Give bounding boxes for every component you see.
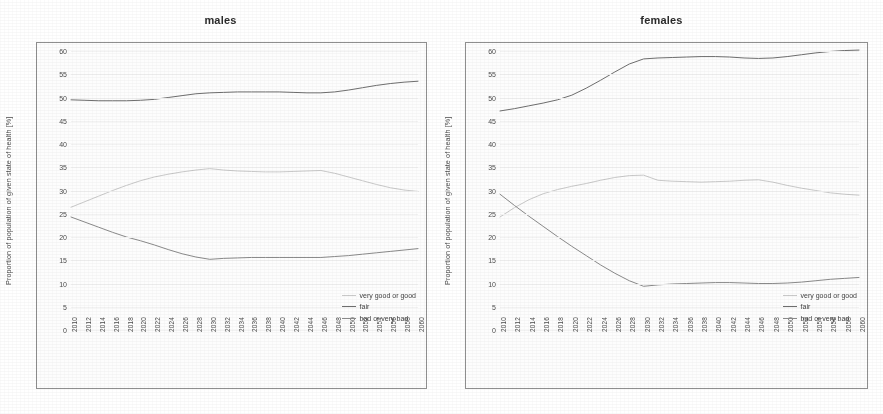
y-tick-label: 0 (492, 327, 496, 334)
y-tick-label: 35 (488, 164, 496, 171)
y-tick-label: 45 (488, 117, 496, 124)
legend-item: bad or very bad (783, 313, 857, 325)
panel-males: males Proportion of population of given … (0, 0, 441, 414)
plot-frame-females: 0510152025303540455055602010201220142016… (465, 42, 868, 389)
y-tick-label: 50 (488, 94, 496, 101)
y-axis-label-males: Proportion of population of given state … (2, 76, 16, 326)
gridline (71, 144, 418, 145)
y-tick-label: 60 (488, 48, 496, 55)
y-tick-label: 30 (488, 187, 496, 194)
y-tick-label: 55 (59, 71, 67, 78)
gridline (500, 167, 859, 168)
legend-swatch-line-icon (783, 295, 797, 296)
legend-item: very good or good (783, 290, 857, 302)
gridline (500, 144, 859, 145)
y-axis-label-females: Proportion of population of given state … (441, 76, 455, 326)
legend-item: very good or good (342, 290, 416, 302)
gridline (71, 260, 418, 261)
legend-males: very good or goodfairbad or very bad (342, 290, 416, 325)
series-line-bad-or-very-bad (500, 194, 859, 286)
y-tick-label: 10 (59, 280, 67, 287)
legend-item: fair (342, 301, 416, 313)
panel-females: females Proportion of population of give… (441, 0, 882, 414)
legend-females: very good or goodfairbad or very bad (783, 290, 857, 325)
gridline (71, 121, 418, 122)
gridline (71, 191, 418, 192)
legend-item-label: bad or very bad (360, 313, 409, 325)
gridline (500, 121, 859, 122)
y-tick-label: 15 (59, 257, 67, 264)
plot-area-females: 0510152025303540455055602010201220142016… (500, 51, 859, 330)
y-tick-label: 60 (59, 48, 67, 55)
gridline (500, 51, 859, 52)
legend-swatch-line-icon (783, 306, 797, 307)
legend-item: fair (783, 301, 857, 313)
legend-item-label: fair (801, 301, 811, 313)
legend-item: bad or very bad (342, 313, 416, 325)
y-tick-label: 20 (59, 234, 67, 241)
y-tick-label: 5 (63, 303, 67, 310)
legend-item-label: very good or good (360, 290, 416, 302)
gridline (71, 98, 418, 99)
y-tick-label: 5 (492, 303, 496, 310)
y-tick-label: 30 (59, 187, 67, 194)
gridline (500, 237, 859, 238)
y-tick-label: 50 (59, 94, 67, 101)
legend-swatch-line-icon (783, 318, 797, 319)
figure-two-panel-line-charts: males Proportion of population of given … (0, 0, 883, 414)
gridline (500, 260, 859, 261)
panel-title-females: females (441, 14, 882, 26)
legend-item-label: bad or very bad (801, 313, 850, 325)
legend-item-label: fair (360, 301, 370, 313)
y-tick-label: 25 (488, 210, 496, 217)
plot-frame-males: 0510152025303540455055602010201220142016… (36, 42, 427, 389)
gridline (71, 237, 418, 238)
panel-title-males: males (0, 14, 441, 26)
gridline (500, 74, 859, 75)
series-line-very-good-or-good (500, 175, 859, 217)
legend-swatch-line-icon (342, 306, 356, 307)
gridline (500, 214, 859, 215)
y-tick-label: 20 (488, 234, 496, 241)
y-tick-label: 25 (59, 210, 67, 217)
legend-swatch-line-icon (342, 318, 356, 319)
gridline (71, 74, 418, 75)
plot-area-males: 0510152025303540455055602010201220142016… (71, 51, 418, 330)
gridline (500, 191, 859, 192)
y-tick-label: 55 (488, 71, 496, 78)
legend-swatch-line-icon (342, 295, 356, 296)
gridline (500, 98, 859, 99)
y-tick-label: 40 (59, 141, 67, 148)
y-tick-label: 10 (488, 280, 496, 287)
legend-item-label: very good or good (801, 290, 857, 302)
y-tick-label: 40 (488, 141, 496, 148)
y-tick-label: 35 (59, 164, 67, 171)
gridline (71, 284, 418, 285)
series-line-bad-or-very-bad (71, 217, 418, 259)
y-tick-label: 15 (488, 257, 496, 264)
y-tick-label: 0 (63, 327, 67, 334)
gridline (71, 167, 418, 168)
gridline (71, 51, 418, 52)
series-line-very-good-or-good (71, 169, 418, 208)
series-line-fair (500, 50, 859, 111)
y-tick-label: 45 (59, 117, 67, 124)
gridline (500, 284, 859, 285)
gridline (71, 214, 418, 215)
